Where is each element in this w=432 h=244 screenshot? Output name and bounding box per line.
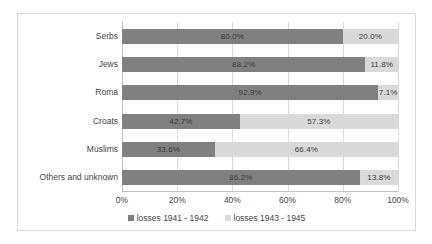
bar-segment-losses-1941-1942[interactable]: 33.6%	[122, 142, 215, 157]
bar-segment-losses-1943-1945[interactable]: 11.8%	[365, 57, 398, 72]
y-axis-line	[122, 22, 123, 192]
legend-swatch-icon	[225, 215, 231, 221]
bar-segment-losses-1943-1945[interactable]: 13.8%	[360, 170, 398, 185]
legend-item-1[interactable]: losses 1941 - 1942	[128, 213, 209, 223]
x-axis-tick-labels: 0%20%40%60%80%100%	[122, 195, 398, 209]
bar-row[interactable]: 80.0%20.0%	[122, 29, 398, 44]
bar-segment-losses-1943-1945[interactable]: 57.3%	[240, 114, 398, 129]
bar-segment-losses-1941-1942[interactable]: 86.2%	[122, 170, 360, 185]
bar-value-label: 13.8%	[367, 173, 390, 182]
plot-area: 80.0%20.0%88.2%11.8%92.9%7.1%42.7%57.3%3…	[122, 22, 398, 192]
bar-row[interactable]: 92.9%7.1%	[122, 85, 398, 100]
bar-segment-losses-1943-1945[interactable]: 66.4%	[215, 142, 398, 157]
bar-row[interactable]: 88.2%11.8%	[122, 57, 398, 72]
bar-value-label: 92.9%	[239, 88, 262, 97]
legend-swatch-icon	[128, 215, 134, 221]
x-tick-100: 100%	[387, 195, 409, 205]
x-tick-40: 40%	[224, 195, 241, 205]
category-label-muslims: Muslims	[18, 142, 118, 157]
category-label-jews: Jews	[18, 57, 118, 72]
bar-row[interactable]: 33.6%66.4%	[122, 142, 398, 157]
category-label-roma: Roma	[18, 85, 118, 100]
gridline-20	[177, 22, 178, 192]
bar-value-label: 80.0%	[221, 32, 244, 41]
x-tick-60: 60%	[279, 195, 296, 205]
category-label-others-and-unknown: Others and unknown	[18, 170, 118, 185]
gridline-80	[343, 22, 344, 192]
bar-value-label: 11.8%	[370, 60, 393, 69]
legend-label: losses 1941 - 1942	[137, 213, 209, 223]
bar-row[interactable]: 86.2%13.8%	[122, 170, 398, 185]
bar-value-label: 42.7%	[169, 117, 192, 126]
x-axis-line	[122, 191, 398, 192]
bar-segment-losses-1941-1942[interactable]: 42.7%	[122, 114, 240, 129]
bar-segment-losses-1943-1945[interactable]: 20.0%	[343, 29, 398, 44]
bar-segment-losses-1941-1942[interactable]: 88.2%	[122, 57, 365, 72]
category-axis-labels: SerbsJewsRomaCroatsMuslimsOthers and unk…	[18, 22, 118, 192]
x-tick-0: 0%	[116, 195, 128, 205]
category-label-croats: Croats	[18, 114, 118, 129]
bar-segment-losses-1943-1945[interactable]: 7.1%	[378, 85, 398, 100]
bar-value-label: 57.3%	[307, 117, 330, 126]
bar-value-label: 88.2%	[232, 60, 255, 69]
bar-segment-losses-1941-1942[interactable]: 92.9%	[122, 85, 378, 100]
gridline-60	[288, 22, 289, 192]
bar-row[interactable]: 42.7%57.3%	[122, 114, 398, 129]
bar-value-label: 66.4%	[295, 145, 318, 154]
legend-item-2[interactable]: losses 1943 - 1945	[225, 213, 306, 223]
bar-value-label: 86.2%	[229, 173, 252, 182]
bar-value-label: 20.0%	[359, 32, 382, 41]
category-label-serbs: Serbs	[18, 29, 118, 44]
chart-legend: losses 1941 - 1942losses 1943 - 1945	[18, 213, 415, 223]
bar-value-label: 33.6%	[157, 145, 180, 154]
bar-segment-losses-1941-1942[interactable]: 80.0%	[122, 29, 343, 44]
chart-frame: SerbsJewsRomaCroatsMuslimsOthers and unk…	[17, 13, 416, 231]
gridline-40	[232, 22, 233, 192]
gridline-100	[398, 22, 399, 192]
bar-value-label: 7.1%	[379, 88, 398, 97]
x-tick-80: 80%	[334, 195, 351, 205]
legend-label: losses 1943 - 1945	[234, 213, 306, 223]
x-tick-20: 20%	[169, 195, 186, 205]
